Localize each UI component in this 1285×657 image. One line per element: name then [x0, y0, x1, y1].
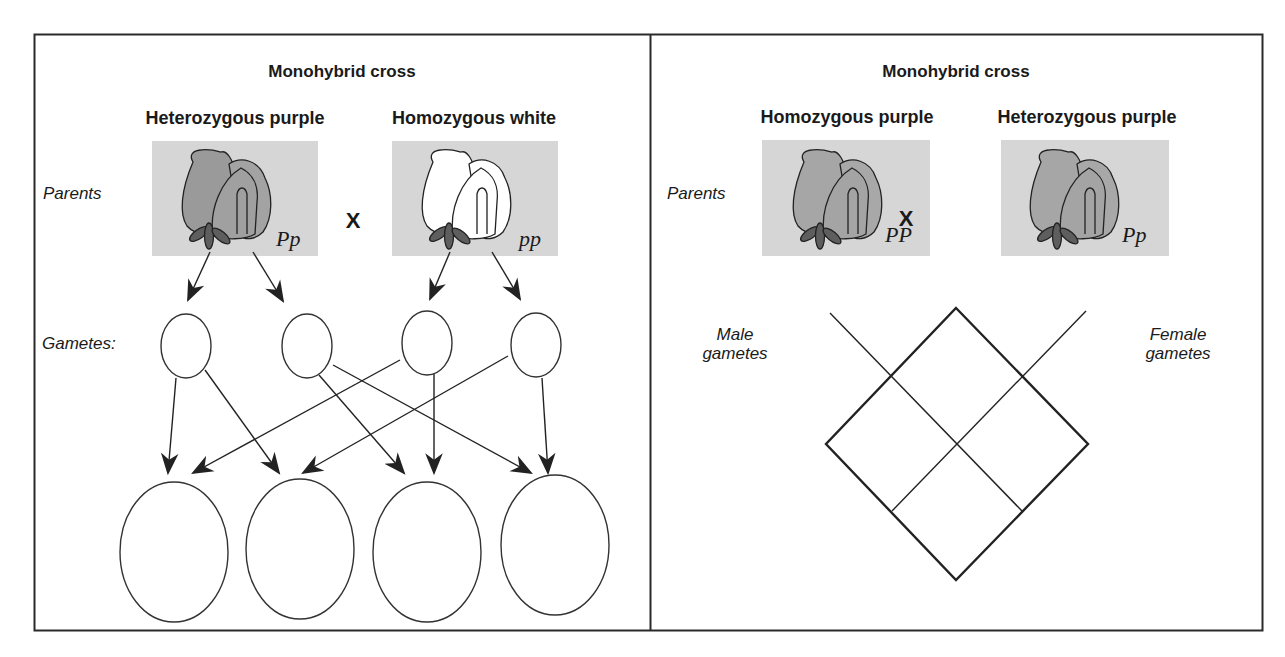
left-parent2-genotype: pp [519, 226, 541, 252]
right-parent1-label: Homozygous purple [760, 107, 933, 128]
right-panel-title: Monohybrid cross [882, 62, 1029, 82]
female-gametes-line2: gametes [1133, 344, 1223, 363]
left-parent1-genotype: Pp [276, 226, 300, 252]
female-gametes-label: Female gametes [1133, 325, 1223, 363]
right-cross-symbol: X [899, 206, 914, 232]
left-parent1-label: Heterozygous purple [145, 108, 324, 129]
diagram-canvas [0, 0, 1285, 657]
gamete-offspring-arrows [168, 356, 548, 473]
male-gametes-line1: Male [695, 325, 775, 344]
left-panel-title: Monohybrid cross [268, 62, 415, 82]
male-gametes-line2: gametes [695, 344, 775, 363]
left-parents-label: Parents [43, 184, 102, 204]
left-parent2-label: Homozygous white [392, 108, 556, 129]
gametes-label: Gametes: [42, 334, 116, 354]
right-parent2-label: Heterozygous purple [997, 107, 1176, 128]
right-parent2-genotype: Pp [1122, 222, 1146, 248]
male-gametes-label: Male gametes [695, 325, 775, 363]
offspring-circles [120, 475, 609, 622]
left-cross-symbol: X [346, 208, 361, 234]
female-gametes-line1: Female [1133, 325, 1223, 344]
parent-gamete-arrows [188, 252, 520, 301]
gamete-circles [161, 311, 561, 378]
punnett-square [826, 308, 1088, 580]
right-parents-label: Parents [667, 184, 726, 204]
